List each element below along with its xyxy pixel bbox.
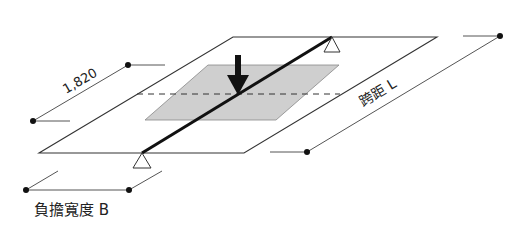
- width-dimension-label: 1,820: [60, 65, 100, 97]
- span-label: 跨距 L: [356, 75, 399, 110]
- beam-load-diagram: 1,820 跨距 L 負擔寬度 B: [0, 0, 507, 237]
- width-dimension: [30, 62, 165, 124]
- tributary-width-dimension: [23, 171, 162, 193]
- support-bottom-icon: [133, 153, 151, 168]
- tributary-width-label: 負擔寬度 B: [34, 201, 109, 219]
